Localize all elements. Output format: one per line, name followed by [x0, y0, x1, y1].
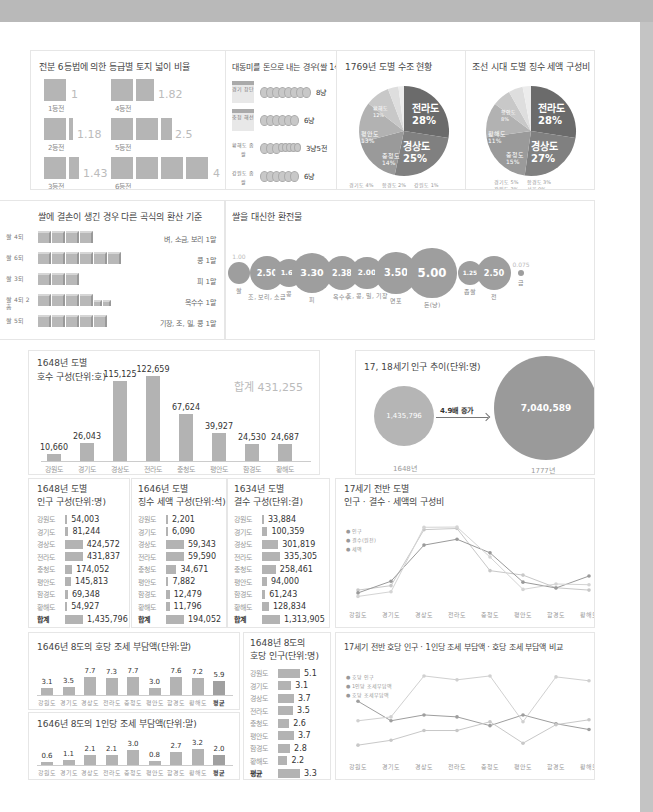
- right-frame-bar: [640, 22, 653, 812]
- row-bar: [262, 527, 267, 536]
- x-label: 황해도: [580, 611, 595, 619]
- data-point: [554, 723, 558, 727]
- row-value: 5.1: [304, 669, 317, 678]
- coin-stack-icon: [260, 87, 308, 98]
- row-value: 3.7: [298, 694, 311, 703]
- x-label: 강원도: [349, 611, 367, 618]
- row-label: 충청도: [234, 564, 262, 574]
- bar: [170, 752, 182, 766]
- pie-label-small: 충청도15%: [506, 151, 524, 165]
- bar-value: 2.0: [213, 745, 224, 753]
- bar-value: 3.5: [63, 677, 74, 685]
- grain-item: 옥수수 1말: [185, 297, 216, 307]
- bar-value: 7.6: [170, 667, 181, 675]
- row-label: 충청도: [138, 564, 166, 574]
- grade4-block: [111, 79, 133, 101]
- x-label: 강원도: [38, 768, 56, 777]
- panel-grain-conversion: 쌀에 결손이 생긴 경우 다른 곡식의 환산 기준 쌀 4되벼, 소금, 보리 …: [0, 200, 225, 340]
- rice-amount: 쌀 4되 2홉: [6, 296, 32, 310]
- x-label: 경상도: [415, 763, 433, 770]
- table-row: 경기도81,244: [37, 526, 100, 538]
- grain-box-icon: [108, 252, 121, 264]
- data-point: [488, 724, 492, 728]
- grade-label: 4등전: [115, 103, 131, 113]
- x-label: 경상도: [111, 464, 129, 474]
- bar-value: 122,659: [136, 365, 169, 374]
- grain-box-icon: [103, 300, 111, 306]
- row-label: 전라도: [37, 552, 65, 562]
- grain-box-icon: [52, 252, 65, 264]
- grade6-block: [161, 157, 183, 179]
- table-row: 강원도33,884: [234, 513, 296, 525]
- x-label: 함경도: [167, 768, 185, 777]
- row-value: 54,927: [71, 602, 99, 611]
- x-label: 황해도: [580, 763, 595, 771]
- x-label: 경상도: [81, 768, 99, 777]
- data-point: [554, 675, 558, 679]
- row-label: 평균: [250, 768, 278, 778]
- table-row: 충청도174,052: [37, 563, 109, 575]
- grain-box-icon: [66, 273, 79, 285]
- row-bar: [278, 681, 291, 690]
- row-label: 강원도: [234, 514, 262, 524]
- bar-value: 24,530: [238, 433, 266, 442]
- row-label: 평안도: [37, 577, 65, 587]
- row-value: 1,435,796: [87, 615, 128, 624]
- bar: [106, 755, 118, 766]
- table-row: 경기도3.1: [250, 680, 308, 692]
- grain-item: 피 1말: [197, 276, 216, 286]
- panel-subtitle: 호당 인구(단위:명): [250, 648, 319, 664]
- table-row: 합계194,052: [138, 613, 221, 625]
- row-label: 전라도: [234, 552, 262, 562]
- table-row: 황해도11,796: [138, 601, 202, 613]
- grade4-block: [136, 79, 154, 101]
- panel-daedong-money: 대동미를 돈으로 내는 경우(쌀 1석) 경기 창단 8냥 충청 해선 6냥 황…: [225, 50, 337, 190]
- bar: [47, 454, 61, 461]
- panel-ratio-line: 17세기 전반 도별 인구 · 결수 · 세액의 구성비 ● 인구 ● 결수(원…: [335, 478, 595, 628]
- row-value: 335,305: [284, 552, 317, 561]
- data-point: [389, 715, 393, 719]
- coin-stack-icon: [260, 171, 296, 182]
- pie-legend: 경기도 5%함경도 3%강원도 3%서울 0%: [494, 178, 551, 190]
- table-row: 전라도335,305: [234, 551, 317, 563]
- data-point: [488, 555, 492, 559]
- bubble-value: 1.00: [232, 253, 245, 260]
- box-stack: [38, 273, 80, 285]
- daedong-value: 6냥: [304, 115, 314, 125]
- grain-item: 벼, 소금, 보리 1말: [164, 234, 216, 244]
- bar: [63, 687, 75, 695]
- grade-label: 2등전: [48, 142, 64, 152]
- data-point: [422, 713, 426, 717]
- data-point: [554, 582, 558, 586]
- row-value: 33,884: [268, 515, 296, 524]
- data-point: [356, 699, 360, 703]
- bar-value: 7.7: [84, 667, 95, 675]
- grain-box-icon: [80, 315, 93, 327]
- grain-box-icon: [94, 252, 107, 264]
- grade-value: 2.5: [175, 128, 193, 141]
- bar: [149, 688, 161, 695]
- bar: [278, 444, 292, 461]
- sack-icon: 충청 해선: [232, 109, 254, 131]
- x-label: 평안도: [146, 768, 164, 777]
- row-bar: [262, 615, 280, 624]
- bar-value: 3.1: [41, 678, 52, 686]
- coin-stack-icon: [260, 143, 298, 154]
- x-label: 충청도: [481, 763, 499, 770]
- bubble-label: 피: [309, 295, 315, 304]
- table-row: 함경도2.8: [250, 742, 307, 754]
- data-point: [389, 738, 393, 742]
- data-point: [389, 719, 393, 723]
- exchange-bubble: 5.00: [407, 248, 456, 297]
- data-point: [521, 580, 525, 584]
- bubble-value: 0.075: [512, 261, 529, 268]
- grade-value: 1.43: [83, 167, 108, 180]
- row-label: 평안도: [234, 577, 262, 587]
- bar-value: 7.2: [192, 668, 203, 676]
- x-label: 충청도: [124, 768, 142, 777]
- pie-label-big: 전라도28%: [412, 103, 439, 127]
- grade-value: 1.18: [77, 128, 102, 141]
- row-value: 258,461: [280, 565, 313, 574]
- x-label: 경기도: [382, 763, 400, 771]
- pie-label-small: 평안도8%: [501, 109, 516, 123]
